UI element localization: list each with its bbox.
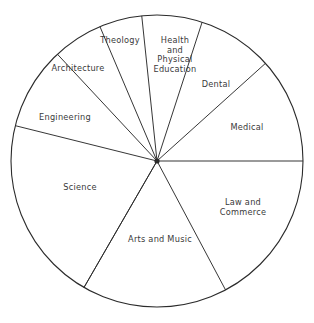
pie-chart-svg: [0, 0, 314, 323]
pie-chart-figure: Health and Physical EducationDentalMedic…: [0, 0, 314, 323]
pie-center-hub: [154, 158, 159, 163]
